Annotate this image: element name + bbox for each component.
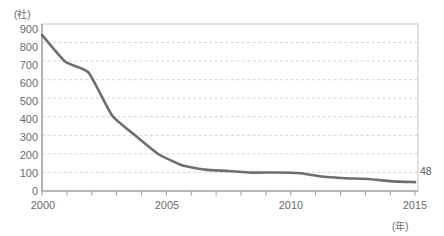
- chart-container: (社) (年) 900 800 700 600 500 400 300 200 …: [0, 0, 444, 236]
- x-axis-ticks: [42, 191, 415, 196]
- chart-plot-svg: [0, 0, 444, 236]
- plot-area-border: [42, 24, 418, 191]
